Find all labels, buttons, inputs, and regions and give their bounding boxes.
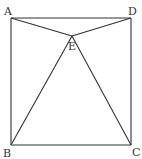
label-c: C — [132, 146, 140, 159]
segment-ae — [11, 18, 72, 36]
label-d: D — [128, 5, 137, 18]
label-e: E — [68, 40, 76, 53]
geometry-diagram: A D E B C — [0, 0, 142, 159]
label-b: B — [3, 147, 11, 159]
segment-de — [72, 18, 131, 36]
segment-be — [11, 36, 72, 145]
label-a: A — [3, 5, 13, 18]
segment-ce — [72, 36, 131, 145]
